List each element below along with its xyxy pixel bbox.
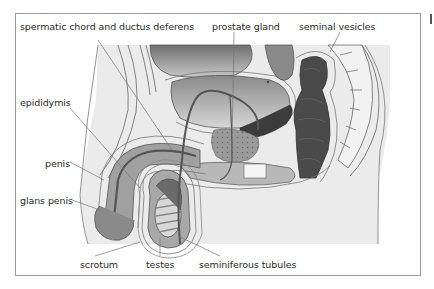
anatomy-illustration xyxy=(0,0,434,289)
label-seminiferous-tubules: seminiferous tubules xyxy=(199,259,296,270)
label-penis: penis xyxy=(45,158,70,169)
label-glans-penis: glans penis xyxy=(20,195,73,206)
label-scrotum: scrotum xyxy=(80,259,118,270)
label-seminal-vesicles: seminal vesicles xyxy=(299,21,375,32)
label-testes: testes xyxy=(146,259,174,270)
label-epididymis: epididymis xyxy=(20,97,71,108)
label-prostate-gland: prostate gland xyxy=(212,21,280,32)
label-spermatic-chord: spermatic chord and ductus deferens xyxy=(20,21,194,32)
